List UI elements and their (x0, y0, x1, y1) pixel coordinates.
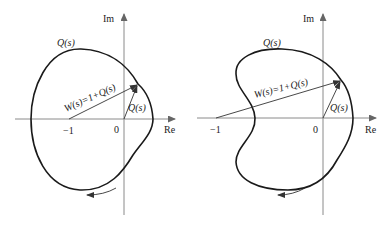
curve-label: Q(s) (57, 37, 75, 49)
q-curve (236, 49, 353, 190)
imag-axis-label: Im (303, 13, 314, 24)
minus-one-label: −1 (63, 125, 74, 136)
q-vector-label: Q(s) (330, 102, 348, 114)
nyquist-figure: Im Re −1 0 Q(s) W(s)=1+Q(s) Q(s) Im Re −… (0, 0, 389, 229)
w-vector-label: W(s)=1+Q(s) (62, 81, 118, 115)
real-axis-label: Re (164, 124, 176, 135)
origin-label: 0 (114, 124, 119, 135)
left-panel: Im Re −1 0 Q(s) W(s)=1+Q(s) Q(s) (15, 13, 176, 215)
w-vector-label: W(s)=1+Q(s) (253, 76, 310, 101)
q-curve (31, 49, 153, 190)
imag-axis-label: Im (103, 13, 114, 24)
minus-one-label: −1 (210, 124, 221, 135)
right-panel: Im Re −1 0 Q(s) W(s)=1+Q(s) Q(s) (197, 13, 377, 215)
origin-label: 0 (313, 124, 318, 135)
curve-label: Q(s) (263, 37, 281, 49)
q-vector-label: Q(s) (128, 102, 146, 114)
real-axis-label: Re (365, 124, 377, 135)
